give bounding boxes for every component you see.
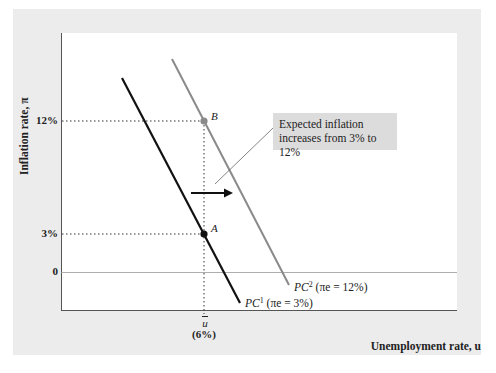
x-axis-label: Unemployment rate, u xyxy=(371,340,481,352)
point-a xyxy=(200,230,207,237)
pc2-label: PC2 (πe = 12%) xyxy=(294,280,367,293)
y-tick-12: 12% xyxy=(18,114,58,126)
pc2-name: PC xyxy=(294,281,309,293)
callout-leader xyxy=(215,128,273,184)
pc1-detail: (πe = 3%) xyxy=(267,297,313,309)
y-axis-label: Inflation rate, π xyxy=(18,97,30,175)
point-b xyxy=(200,117,207,124)
y-tick-0: 0 xyxy=(18,265,58,277)
pc2-sup: 2 xyxy=(309,280,313,289)
pc1-label: PC1 (πe = 3%) xyxy=(245,296,313,309)
callout-box: Expected inflation increases from 3% to … xyxy=(273,113,397,150)
pc1-name: PC xyxy=(245,297,260,309)
arrow-head-icon xyxy=(224,189,233,198)
point-a-label: A xyxy=(211,222,218,234)
y-tick-3: 3% xyxy=(18,227,58,239)
x-tick-natural-rate: (6%) xyxy=(186,328,222,340)
pc1-curve xyxy=(122,78,240,303)
pc2-curve xyxy=(172,59,289,285)
point-b-label: B xyxy=(211,110,218,122)
callout-line-1: Expected inflation xyxy=(279,117,397,131)
pc1-sup: 1 xyxy=(260,296,264,305)
chart-graphics xyxy=(0,0,496,373)
pc2-detail: (πe = 12%) xyxy=(316,281,368,293)
callout-line-2: increases from 3% to 12% xyxy=(279,131,397,159)
